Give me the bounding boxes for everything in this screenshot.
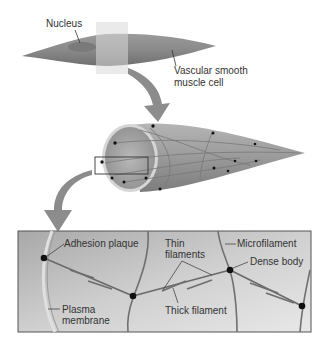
cross-section-plane (96, 22, 128, 74)
label-thin-line2: filaments (165, 249, 205, 260)
label-dense-body: Dense body (250, 256, 303, 267)
label-thin-line1: Thin (165, 238, 184, 249)
zoom-arrow-1 (128, 68, 170, 122)
label-plasma-line2: membrane (62, 315, 110, 326)
diagram-canvas (0, 0, 328, 345)
label-thick-filament: Thick filament (165, 305, 227, 316)
label-cell-line1: Vascular smooth (174, 65, 248, 76)
label-cell-line2: muscle cell (174, 77, 223, 88)
label-adhesion-plaque: Adhesion plaque (64, 238, 139, 249)
label-plasma-line1: Plasma (62, 304, 95, 315)
adhesion-plaque-dot (41, 255, 48, 262)
nucleus-shape (68, 42, 96, 52)
label-nucleus: Nucleus (46, 18, 82, 29)
cell-cross-section (95, 123, 305, 192)
zoom-arrow-2 (44, 170, 92, 232)
label-microfilament: Microfilament (237, 238, 296, 249)
